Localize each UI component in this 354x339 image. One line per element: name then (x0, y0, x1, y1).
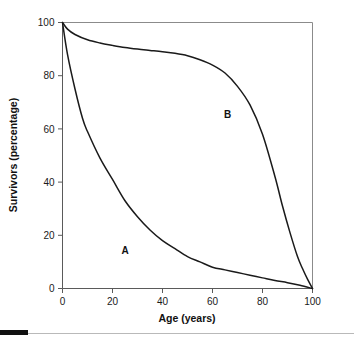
x-tick-label: 0 (60, 296, 66, 307)
y-tick-label: 60 (43, 124, 55, 135)
y-tick-label: 100 (38, 17, 55, 28)
x-tick-label: 20 (107, 296, 119, 307)
x-tick-label: 40 (157, 296, 169, 307)
x-tick-label: 80 (257, 296, 269, 307)
x-axis-title: Age (years) (158, 312, 215, 324)
y-axis-title: Survivors (percentage) (7, 98, 19, 212)
y-tick-label: 40 (43, 177, 55, 188)
footer-bar (0, 330, 28, 335)
survivorship-curve-chart: 020406080100 020406080100 AB Age (years)… (0, 0, 354, 339)
x-tick-label: 100 (304, 296, 321, 307)
y-tick-label: 0 (49, 283, 55, 294)
y-tick-label: 80 (43, 70, 55, 81)
curve-label-a: A (121, 245, 128, 256)
y-tick-label: 20 (43, 230, 55, 241)
curve-label-b: B (224, 109, 231, 120)
x-tick-label: 60 (207, 296, 219, 307)
figure-container: 020406080100 020406080100 AB Age (years)… (0, 0, 354, 339)
